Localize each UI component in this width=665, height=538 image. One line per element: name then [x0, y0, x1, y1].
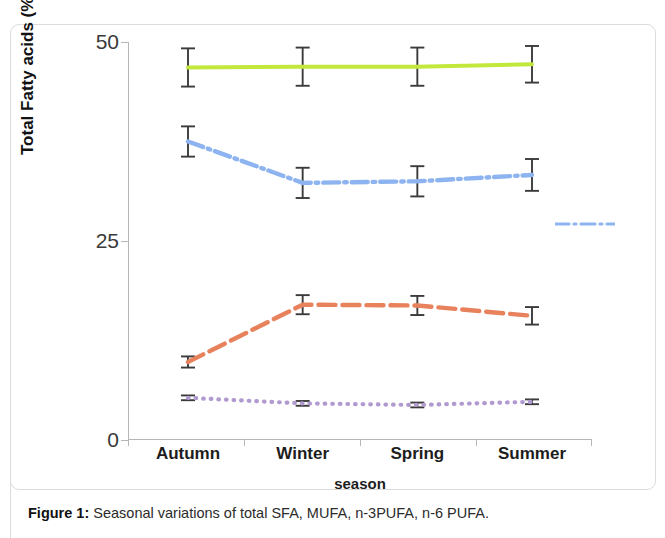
y-tick — [121, 42, 128, 43]
figure-panel-border-extension — [10, 420, 11, 538]
x-axis-title: season — [128, 475, 592, 492]
mufa-stray-dash-segment — [555, 222, 615, 226]
x-tick-label-autumn: Autumn — [156, 444, 220, 464]
y-tick-label: 50 — [96, 31, 119, 52]
series-line-n-3-pufa — [188, 398, 532, 405]
y-tick — [121, 440, 128, 441]
y-tick-label: 0 — [107, 429, 119, 450]
series-line-sfa — [188, 64, 532, 67]
x-tick — [476, 440, 477, 446]
plot-area: 02550 AutumnWinterSpringSummer season — [128, 42, 592, 440]
x-tick — [591, 440, 592, 446]
y-tick — [121, 241, 128, 242]
figure-caption-prefix: Figure 1: — [28, 505, 89, 521]
y-tick-label: 25 — [96, 230, 119, 251]
series-line-mufa — [188, 142, 532, 183]
x-tick-label-summer: Summer — [498, 444, 566, 464]
x-tick-label-winter: Winter — [276, 444, 329, 464]
figure-caption-text: Seasonal variations of total SFA, MUFA, … — [93, 505, 489, 521]
x-tick-label-spring: Spring — [390, 444, 444, 464]
figure-caption: Figure 1: Seasonal variations of total S… — [28, 505, 648, 522]
y-axis-title: Total Fatty acids (%) — [18, 0, 38, 155]
x-tick — [244, 440, 245, 446]
series-line-n-6-pufa — [188, 305, 532, 362]
figure-container: Total Fatty acids (%) 02550 AutumnWinter… — [0, 0, 665, 538]
series-layer — [128, 42, 592, 440]
x-tick — [360, 440, 361, 446]
